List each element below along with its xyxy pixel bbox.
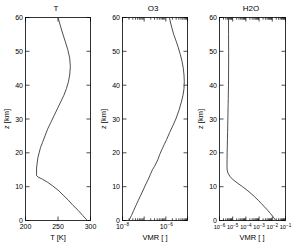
y-ticklabel-30: 30 (209, 116, 217, 123)
x-tickmarks (123, 18, 188, 221)
panel-title: T (54, 4, 59, 13)
plot-frame (123, 18, 188, 221)
y-ticklabel-60: 60 (15, 14, 23, 21)
y-axis-label: z [km] (196, 109, 205, 129)
x-ticklabel-5: 10−1 (280, 223, 292, 230)
panel-water-vapour-svg: H2O (194, 0, 294, 250)
y-ticklabel-20: 20 (209, 149, 217, 156)
x-ticklabels: 10−610−510−410−310−210−1 (214, 223, 292, 230)
panel-temperature: T 0 (0, 0, 99, 250)
ozone-profile-curve (129, 18, 184, 221)
y-ticklabel-60: 60 (209, 14, 217, 21)
svg-text:10−8: 10−8 (116, 222, 129, 230)
y-ticklabel-50: 50 (209, 48, 217, 55)
x-axis-ticks: 200 250 300 (20, 18, 97, 231)
y-ticklabel-10: 10 (209, 183, 217, 190)
y-ticklabel-20: 20 (15, 149, 23, 156)
water-vapour-profile-curve (227, 18, 276, 221)
plot-frame (220, 18, 286, 221)
y-ticklabel-50: 50 (15, 48, 23, 55)
panel-water-vapour: H2O (194, 0, 294, 250)
y-ticklabel-40: 40 (112, 82, 120, 89)
panel-ozone-svg: O3 0 (97, 0, 196, 250)
x-ticklabel-2: 10−4 (240, 223, 252, 230)
y-ticklabel-20: 20 (112, 149, 120, 156)
x-tickmarks (220, 18, 286, 221)
panel-ozone: O3 0 (97, 0, 196, 250)
y-ticklabel-60: 60 (112, 14, 120, 21)
x-ticklabel-1: 10−5 (227, 223, 239, 230)
svg-text:10−6: 10−6 (160, 222, 173, 230)
x-ticklabel-3: 10−3 (253, 223, 265, 230)
y-axis-label: z [km] (99, 109, 108, 129)
x-ticklabel-300: 300 (85, 223, 97, 230)
y-ticklabel-10: 10 (15, 183, 23, 190)
y-ticklabel-30: 30 (15, 116, 23, 123)
x-ticklabel-4: 10−2 (267, 223, 279, 230)
temperature-profile-curve (37, 18, 88, 221)
y-tickmarks (123, 18, 188, 221)
x-axis-label: VMR [ ] (239, 233, 264, 242)
y-tickmarks (220, 18, 286, 221)
y-ticklabel-10: 10 (112, 183, 120, 190)
y-axis-ticks: 0 10 20 30 40 50 60 (209, 14, 285, 224)
y-ticklabel-40: 40 (209, 82, 217, 89)
panel-title: H2O (243, 4, 259, 13)
x-axis-label: VMR [ ] (142, 233, 167, 242)
x-ticklabel-1em8: 10−8 (116, 222, 129, 230)
y-ticklabel-0: 0 (213, 217, 217, 224)
figure-container: T 0 (0, 0, 294, 250)
y-axis-label: z [km] (2, 109, 11, 129)
y-ticklabel-30: 30 (112, 116, 120, 123)
panel-temperature-svg: T 0 (0, 0, 99, 250)
x-ticklabel-250: 250 (52, 223, 64, 230)
x-ticklabel-1em6: 10−6 (160, 222, 173, 230)
x-axis-label: T [K] (50, 233, 66, 242)
x-ticklabel-200: 200 (20, 223, 32, 230)
panel-title: O3 (148, 4, 159, 13)
x-ticklabel-0: 10−6 (214, 223, 226, 230)
y-ticklabel-50: 50 (112, 48, 120, 55)
y-ticklabel-40: 40 (15, 82, 23, 89)
